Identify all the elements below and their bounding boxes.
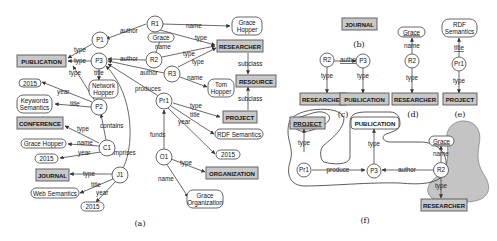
edge-label-subclass: subclass [238,95,263,102]
class-journal: JOURNAL [345,22,374,28]
svg-text:PUBLICATION: PUBLICATION [355,121,396,127]
edge-label-year: year [96,189,108,197]
svg-text:R1: R1 [151,20,160,27]
literal-2015: 2015 [81,202,104,211]
node-P3: P3 [367,164,381,178]
panel-c: author type type R2 P3 RESEARCHER PUBLIC… [300,53,389,119]
svg-text:PROJECT: PROJECT [293,121,322,127]
svg-text:Semantics: Semantics [445,28,474,35]
class-journal: JOURNAL [36,169,69,181]
svg-text:Grace: Grace [196,192,214,199]
edge-label-produce: produce [327,166,350,174]
svg-text:R2: R2 [323,56,332,63]
edge-label-type: type [406,74,418,82]
svg-text:J1: J1 [117,171,124,178]
class-conference: CONFERENCE [17,117,63,129]
edge-label-title: title [94,69,104,76]
edge-label-title: title [70,100,80,107]
svg-text:Hopper: Hopper [211,88,232,96]
literal-tom-hopper: TomHopper [208,79,234,97]
class-project: PROJECT [223,111,257,123]
class-project: PROJECT [290,117,325,129]
svg-text:2015: 2015 [23,80,38,87]
svg-text:R2: R2 [437,166,446,173]
edge-label-funds: funds [150,131,165,138]
svg-text:Hopper: Hopper [237,26,258,34]
caption-d: (d) [407,110,418,119]
svg-text:ORGANIZATION: ORGANIZATION [209,171,255,177]
edge-label-type: type [321,72,333,80]
svg-text:PROJECT: PROJECT [446,97,475,103]
edge-label-name: name [77,139,93,146]
svg-text:RDF Semantics: RDF Semantics [217,131,261,138]
node-P3: P3 [91,53,107,69]
literal-network-hopper: NetworkHopper [89,80,118,98]
svg-text:RDF: RDF [453,21,466,28]
class-publication: PUBLICATION [17,55,66,67]
node-C1: C1 [99,140,115,156]
edge-label-name: name [433,150,449,157]
edge-label-type: type [368,140,380,148]
edge-label-name: name [155,43,171,50]
edge-label-type: type [192,58,204,66]
edge-label-type: type [435,182,447,190]
panel-b: JOURNAL (b) [342,18,377,49]
svg-text:Organization: Organization [187,199,223,207]
class-organization: ORGANIZATION [206,167,258,179]
svg-text:RESEARCHER: RESEARCHER [302,97,345,103]
edge-label-type: type [190,102,202,110]
highlight-region [428,121,489,203]
literal-grace: Grace [429,136,454,146]
svg-text:Grace: Grace [403,29,421,36]
edge-label-name: name [187,74,203,81]
edge-label-author: author [120,55,138,62]
node-P1: P1 [92,32,108,48]
node-P2: P2 [91,99,107,115]
svg-text:P2: P2 [95,103,103,110]
node-R2: R2 [434,163,449,178]
node-R1: R1 [147,16,163,32]
node-P3: P3 [356,54,370,68]
svg-text:Hopper: Hopper [93,89,114,97]
svg-text:Grace: Grace [238,19,256,26]
node-R2: R2 [320,53,334,67]
edge-label-type: type [183,50,195,58]
class-resource: RESOURCE [236,75,276,87]
edge-label-author: author [398,166,416,173]
caption-a: (a) [134,219,145,228]
svg-text:Pr1: Pr1 [299,166,309,173]
panel-a: author name type name author type author… [17,16,276,228]
svg-text:RESEARCHER: RESEARCHER [423,203,466,209]
svg-text:Pr1: Pr1 [454,60,464,67]
svg-text:Pr1: Pr1 [159,97,169,104]
edge-label-type: type [357,72,369,80]
edge-label-title: title [454,44,464,51]
svg-text:O1: O1 [160,153,169,160]
node-Pr1: Pr1 [452,57,466,71]
literal-grace-organization: GraceOrganization [187,190,223,208]
svg-text:P3: P3 [359,57,367,64]
literal-grace: Grace [148,33,174,42]
svg-text:CONFERENCE: CONFERENCE [19,121,61,127]
literal-grace-hopper: Grace Hopper [21,139,66,148]
svg-text:PUBLICATION: PUBLICATION [344,97,385,103]
caption-b: (b) [353,40,364,49]
edge-label-year: year [78,149,90,157]
caption-e: (e) [455,110,466,119]
node-J1: J1 [112,167,128,183]
edge-label-produces: produces [135,85,161,93]
node-O1: O1 [156,149,172,165]
edge-label-author: author [340,56,358,63]
node-R2: R2 [146,52,162,68]
caption-c: (c) [338,110,349,119]
edge-label-type: type [74,46,86,54]
literal-grace-hopper: GraceHopper [232,17,262,35]
class-project: PROJECT [443,93,477,105]
literal-rdf-semantics: RDF Semantics [215,129,263,139]
panel-f: type type produce author name type PROJE… [288,109,489,225]
svg-text:Web Semantics: Web Semantics [33,190,77,197]
svg-text:Grace: Grace [152,34,170,41]
literal-grace: Grace [398,27,425,37]
svg-text:PROJECT: PROJECT [226,115,255,121]
svg-text:RESEARCHER: RESEARCHER [394,97,437,103]
